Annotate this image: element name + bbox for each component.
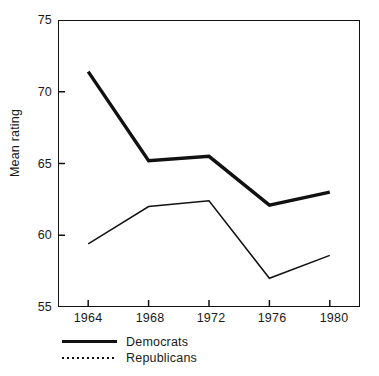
legend: Democrats Republicans (62, 334, 362, 366)
dotted-line-swatch-icon (62, 351, 117, 365)
y-tick-label-65: 65 (8, 158, 52, 170)
solid-line-swatch-icon (62, 335, 117, 349)
y-tick-label-60: 60 (8, 229, 52, 241)
y-tick-label-75: 75 (8, 14, 52, 26)
line-chart: Mean rating 75 70 65 60 55 1964 1968 197… (0, 0, 379, 376)
x-tick-label-1968: 1968 (136, 312, 165, 325)
x-tick-label-1964: 1964 (74, 312, 103, 325)
y-tick-label-70: 70 (8, 86, 52, 98)
x-axis-tick-labels: 1964 1968 1972 1976 1980 (0, 312, 379, 332)
legend-label-republicans: Republicans (126, 351, 197, 365)
x-tick-label-1976: 1976 (258, 312, 287, 325)
x-tick-label-1972: 1972 (197, 312, 226, 325)
plot-area-frame (58, 20, 360, 307)
legend-item-democrats: Democrats (62, 334, 362, 350)
legend-item-republicans: Republicans (62, 350, 362, 366)
x-tick-label-1980: 1980 (320, 312, 349, 325)
legend-label-democrats: Democrats (126, 335, 188, 349)
